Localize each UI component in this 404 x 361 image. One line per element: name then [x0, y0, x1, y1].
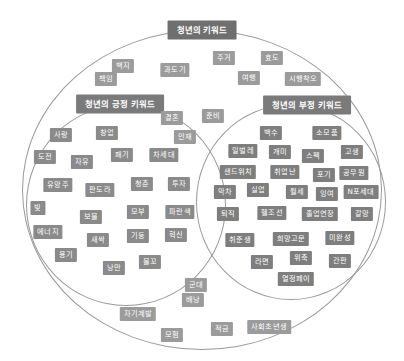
keyword-tag: 혁신: [165, 228, 187, 242]
keyword-tag: 열정페이: [278, 272, 314, 286]
keyword-tag: 낭만: [103, 261, 125, 275]
keyword-tag: 용기: [55, 248, 77, 262]
keyword-tag: 자기계발: [120, 307, 156, 321]
keyword-tag: 보물: [80, 210, 102, 224]
keyword-tag: 빛: [30, 201, 45, 215]
keyword-tag: 포기: [313, 168, 335, 182]
keyword-tag: 창업: [96, 126, 118, 140]
keyword-tag: 효도: [261, 51, 283, 65]
keyword-tag: 라면: [251, 255, 273, 269]
keyword-tag: 준비: [202, 109, 224, 123]
keyword-tag: 모부: [127, 205, 149, 219]
keyword-tag: 결혼: [161, 111, 183, 125]
keyword-tag: 스펙: [302, 149, 324, 163]
keyword-tag: 취업난: [270, 165, 299, 179]
keyword-tag: 모험: [161, 328, 183, 342]
keyword-tag: 헬조선: [257, 206, 286, 220]
keyword-venn-diagram: 청년의 키워드 청년의 긍정 키워드 청년의 부정 키워드 백지주거효도책임과도…: [0, 0, 404, 361]
keyword-tag: 갈망: [351, 207, 373, 221]
keyword-tag: 미완성: [325, 231, 354, 245]
keyword-tag: 백수: [260, 126, 282, 140]
keyword-tag: 배낭: [182, 293, 204, 307]
keyword-tag: 도전: [34, 150, 56, 164]
keyword-tag: 잉여: [316, 187, 338, 201]
keyword-tag: 희망고문: [273, 232, 309, 246]
keyword-tag: 청춘: [131, 177, 153, 191]
group-label-negative: 청년의 부정 키워드: [263, 96, 351, 115]
keyword-tag: N포세대: [344, 185, 379, 199]
keyword-tag: 실업: [247, 183, 269, 197]
keyword-tag: 차세대: [149, 148, 178, 162]
keyword-tag: 자유: [71, 155, 93, 169]
keyword-tag: 여행: [238, 71, 260, 85]
keyword-tag: 적금: [211, 322, 233, 336]
keyword-tag: 기둥: [127, 229, 149, 243]
keyword-tag: 공무원: [339, 166, 368, 180]
keyword-tag: 투자: [168, 177, 190, 191]
keyword-tag: 사회초년생: [247, 320, 291, 334]
keyword-tag: 유망주: [43, 178, 72, 192]
keyword-tag: 패기: [111, 148, 133, 162]
keyword-tag: 물꼬: [139, 255, 161, 269]
keyword-tag: 사랑: [50, 128, 72, 142]
keyword-tag: 군대: [185, 278, 207, 292]
keyword-tag: 새싹: [87, 233, 109, 247]
keyword-tag: 막차: [214, 185, 236, 199]
keyword-tag: 과도기: [160, 63, 189, 77]
keyword-tag: 책임: [95, 72, 117, 86]
diagram-title: 청년의 키워드: [168, 21, 237, 40]
keyword-tag: 소모품: [312, 126, 341, 140]
keyword-tag: 파란색: [165, 205, 194, 219]
keyword-tag: 인재: [174, 130, 196, 144]
keyword-tag: 고생: [341, 145, 363, 159]
keyword-tag: 취준생: [225, 233, 254, 247]
inner-circle-negative: [196, 104, 386, 300]
keyword-tag: 샌드위치: [220, 165, 256, 179]
group-label-positive: 청년의 긍정 키워드: [76, 95, 164, 114]
keyword-tag: 월세: [286, 185, 308, 199]
keyword-tag: 주거: [213, 51, 235, 65]
keyword-tag: 에너지: [33, 225, 62, 239]
keyword-tag: 시행착오: [285, 72, 321, 86]
keyword-tag: 졸업연장: [302, 207, 338, 221]
keyword-tag: 판도라: [85, 183, 114, 197]
keyword-tag: 위축: [290, 251, 312, 265]
keyword-tag: 퇴직: [217, 207, 239, 221]
keyword-tag: 백지: [112, 59, 134, 73]
keyword-tag: 간판: [329, 254, 351, 268]
keyword-tag: 일벌레: [228, 144, 257, 158]
keyword-tag: 개미: [269, 145, 291, 159]
